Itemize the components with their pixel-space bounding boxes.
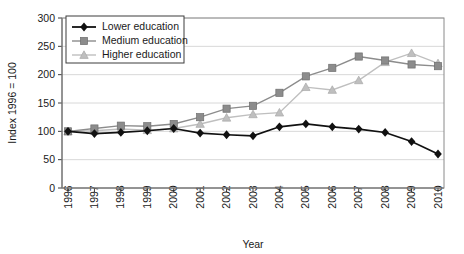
data-point-square (329, 64, 336, 71)
y-tick-label: 0 (49, 182, 55, 194)
x-tick-label: 2004 (273, 185, 285, 209)
x-tick-label: 1998 (114, 185, 126, 209)
legend-label-higher-education: Higher education (102, 48, 182, 60)
x-tick-label: 2009 (405, 185, 417, 209)
y-tick-label: 200 (37, 68, 55, 80)
y-tick-label: 50 (43, 153, 55, 165)
data-point-square (355, 53, 362, 60)
data-point-square (408, 61, 415, 68)
line-chart: 0501001502002503001996199719981999200020… (0, 0, 464, 254)
x-tick-label: 2005 (299, 185, 311, 209)
y-axis-title: Index 1996 = 100 (6, 62, 18, 144)
y-tick-label: 100 (37, 125, 55, 137)
data-point-square (249, 102, 256, 109)
data-point-square (382, 57, 389, 64)
data-point-square (80, 37, 87, 44)
data-point-square (276, 89, 283, 96)
x-tick-label: 2006 (326, 185, 338, 209)
data-point-square (223, 105, 230, 112)
y-tick-label: 250 (37, 40, 55, 52)
x-tick-label: 1996 (62, 185, 74, 209)
legend-label-medium-education: Medium education (102, 34, 188, 46)
legend-label-lower-education: Lower education (102, 20, 179, 32)
y-tick-label: 150 (37, 97, 55, 109)
x-tick-label: 2007 (352, 185, 364, 209)
chart-container: 0501001502002503001996199719981999200020… (0, 0, 464, 254)
x-tick-label: 2002 (220, 185, 232, 209)
data-point-square (434, 63, 441, 70)
x-tick-label: 1999 (141, 185, 153, 209)
x-tick-label: 2001 (194, 185, 206, 209)
data-point-square (197, 114, 204, 121)
y-tick-label: 300 (37, 12, 55, 24)
x-tick-label: 2010 (432, 185, 444, 209)
x-tick-label: 2008 (379, 185, 391, 209)
x-tick-label: 2000 (167, 185, 179, 209)
data-point-square (302, 73, 309, 80)
x-axis-title: Year (242, 238, 264, 250)
x-tick-label: 2003 (247, 185, 259, 209)
x-tick-label: 1997 (88, 185, 100, 209)
